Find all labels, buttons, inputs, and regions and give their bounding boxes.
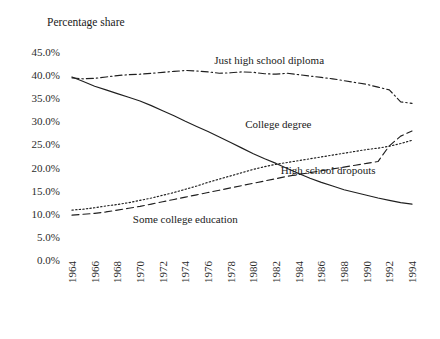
x-tick-label: 1980: [247, 261, 259, 284]
series-label-2: High school dropouts: [281, 164, 376, 176]
x-tick-label: 1976: [202, 261, 214, 284]
y-tick-label: 20.0%: [32, 162, 60, 174]
y-tick-label: 5.0%: [37, 231, 60, 243]
x-tick-label: 1970: [134, 261, 146, 284]
x-tick-label: 1994: [406, 261, 418, 284]
y-tick-label: 25.0%: [32, 138, 60, 150]
y-tick-label: 40.0%: [32, 69, 60, 81]
y-tick-label: 30.0%: [32, 115, 60, 127]
series-label-0: Just high school diploma: [214, 54, 324, 66]
y-tick-label: 10.0%: [32, 208, 60, 220]
x-tick-label: 1964: [66, 261, 78, 284]
y-tick-label: 45.0%: [32, 46, 60, 58]
x-tick-label: 1974: [179, 261, 191, 284]
y-tick-label: 0.0%: [37, 254, 60, 266]
x-tick-label: 1966: [89, 261, 101, 284]
x-tick-label: 1988: [338, 261, 350, 284]
y-tick-label: 35.0%: [32, 92, 60, 104]
x-tick-label: 1990: [361, 261, 373, 284]
x-tick-label: 1972: [157, 261, 169, 283]
line-chart: Percentage share 0.0%5.0%10.0%15.0%20.0%…: [0, 0, 440, 339]
chart-title: Percentage share: [47, 16, 125, 29]
x-tick-label: 1982: [270, 261, 282, 283]
x-tick-label: 1968: [111, 261, 123, 284]
x-tick-label: 1986: [315, 261, 327, 284]
y-tick-label: 15.0%: [32, 185, 60, 197]
chart-container: Percentage share 0.0%5.0%10.0%15.0%20.0%…: [0, 0, 440, 339]
series-label-3: Some college education: [133, 213, 239, 225]
x-tick-label: 1978: [225, 261, 237, 284]
x-tick-label: 1984: [293, 261, 305, 284]
x-tick-label: 1992: [383, 261, 395, 283]
series-label-1: College degree: [245, 118, 311, 130]
